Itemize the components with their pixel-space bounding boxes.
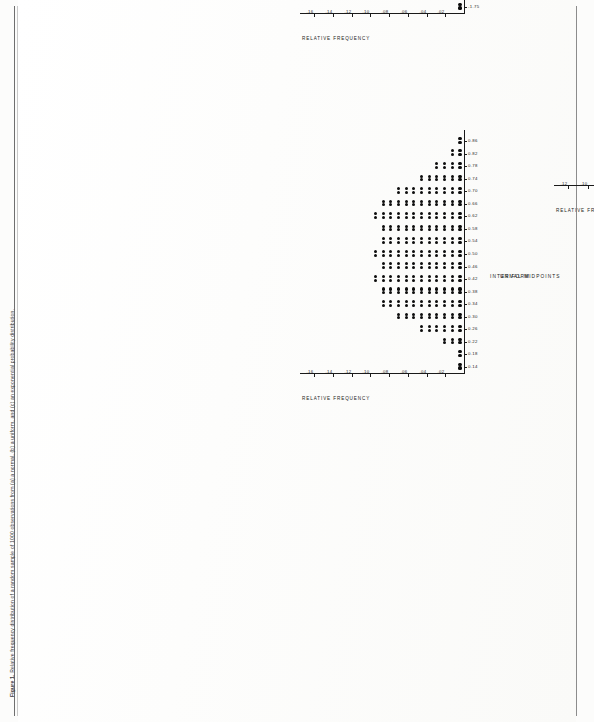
data-dot — [389, 254, 392, 257]
data-dot — [405, 203, 408, 206]
data-dot — [412, 279, 415, 282]
x-tick-mark — [465, 7, 467, 8]
data-dot — [443, 275, 446, 278]
data-dot — [451, 279, 454, 282]
data-dot — [420, 287, 423, 290]
data-dot — [397, 191, 400, 194]
data-dot — [451, 313, 454, 316]
data-dot — [435, 329, 438, 332]
data-dot — [405, 212, 408, 215]
x-tick-label: 0.38 — [468, 289, 478, 294]
data-dot — [443, 187, 446, 190]
data-dot — [443, 300, 446, 303]
data-dot — [420, 300, 423, 303]
data-dot — [412, 191, 415, 194]
data-dot — [382, 228, 385, 231]
data-dot — [458, 203, 461, 206]
y-tick-mark — [445, 374, 446, 377]
data-dot — [420, 191, 423, 194]
x-tick-mark — [465, 191, 467, 192]
data-dot — [389, 237, 392, 240]
x-tick-label: 0.18 — [468, 351, 478, 356]
data-dot — [451, 200, 454, 203]
x-tick-label: 0.22 — [468, 339, 478, 344]
x-tick-label: 0.30 — [468, 314, 478, 319]
data-dot — [412, 203, 415, 206]
data-dot — [435, 279, 438, 282]
data-dot — [428, 313, 431, 316]
data-dot — [397, 262, 400, 265]
data-dot — [397, 228, 400, 231]
data-dot — [428, 241, 431, 244]
x-tick-label: 0.26 — [468, 326, 478, 331]
data-dot — [374, 250, 377, 253]
data-dot — [420, 187, 423, 190]
data-dot — [443, 191, 446, 194]
x-tick-mark — [465, 154, 467, 155]
data-dot — [420, 325, 423, 328]
data-dot — [389, 304, 392, 307]
data-dot — [412, 216, 415, 219]
data-dot — [382, 266, 385, 269]
x-tick-mark — [465, 292, 467, 293]
data-dot — [412, 254, 415, 257]
data-dot — [397, 316, 400, 319]
data-dot — [458, 153, 461, 156]
data-dot — [420, 254, 423, 257]
y-tick-mark — [427, 374, 428, 377]
data-dot — [458, 325, 461, 328]
data-dot — [443, 291, 446, 294]
data-dot — [428, 291, 431, 294]
y-tick-mark — [370, 374, 371, 377]
data-dot — [458, 162, 461, 165]
data-dot — [389, 291, 392, 294]
data-dot — [435, 225, 438, 228]
data-dot — [451, 316, 454, 319]
data-dot — [451, 254, 454, 257]
data-dot — [382, 225, 385, 228]
x-tick-mark — [465, 304, 467, 305]
data-dot — [412, 187, 415, 190]
data-dot — [412, 250, 415, 253]
data-dot — [428, 191, 431, 194]
panel-title: UNIFORM — [500, 274, 530, 279]
data-dot — [405, 279, 408, 282]
data-dot — [397, 212, 400, 215]
data-dot — [435, 262, 438, 265]
data-dot — [435, 216, 438, 219]
data-dot — [382, 250, 385, 253]
data-dot — [435, 166, 438, 169]
data-dot — [435, 325, 438, 328]
data-dot — [443, 279, 446, 282]
figure-caption-label: Figure 1. — [9, 674, 15, 697]
data-dot — [397, 200, 400, 203]
data-dot — [412, 275, 415, 278]
data-dot — [458, 300, 461, 303]
data-dot — [382, 203, 385, 206]
data-dot — [382, 216, 385, 219]
data-dot — [435, 200, 438, 203]
y-tick-mark — [352, 374, 353, 377]
data-dot — [435, 291, 438, 294]
data-dot — [389, 300, 392, 303]
data-dot — [458, 3, 461, 6]
data-dot — [458, 275, 461, 278]
y-tick-mark — [314, 374, 315, 377]
data-dot — [451, 287, 454, 290]
data-dot — [451, 191, 454, 194]
data-dot — [435, 313, 438, 316]
data-dot — [435, 304, 438, 307]
data-dot — [382, 275, 385, 278]
x-tick-mark — [465, 317, 467, 318]
data-dot — [397, 216, 400, 219]
data-dot — [443, 313, 446, 316]
data-dot — [428, 254, 431, 257]
data-dot — [389, 262, 392, 265]
data-dot — [458, 313, 461, 316]
data-dot — [397, 266, 400, 269]
data-dot — [435, 203, 438, 206]
data-dot — [458, 354, 461, 357]
x-tick-label: 0.70 — [468, 188, 478, 193]
data-dot — [382, 300, 385, 303]
data-dot — [443, 203, 446, 206]
